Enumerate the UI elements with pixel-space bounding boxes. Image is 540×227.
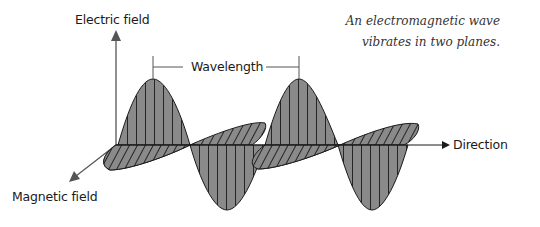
caption-line-2: vibrates in two planes. [346, 32, 500, 53]
wavelength-label: Wavelength [191, 59, 263, 74]
arrow-down-left-icon [69, 171, 80, 182]
magnetic-field-label: Magnetic field [12, 189, 97, 204]
arrow-up-icon [111, 30, 121, 41]
caption: An electromagnetic wave vibrates in two … [346, 11, 500, 53]
electric-field-label: Electric field [75, 12, 149, 27]
arrow-right-icon [442, 141, 450, 149]
electric-field-axis [111, 30, 121, 145]
caption-line-1: An electromagnetic wave [346, 11, 500, 32]
direction-label: Direction [453, 137, 508, 152]
